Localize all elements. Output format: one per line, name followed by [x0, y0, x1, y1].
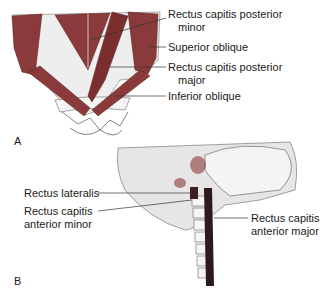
- panel-a-drawing: [12, 12, 166, 135]
- label-rectus-lateralis: Rectus lateralis: [24, 187, 99, 199]
- label-inferior-oblique: Inferior oblique: [168, 90, 241, 102]
- anatomy-illustration: [0, 0, 324, 291]
- label-rcp-minor-cont: minor: [178, 21, 206, 33]
- panel-a-letter: A: [14, 135, 21, 147]
- label-rca-major-cont: anterior major: [251, 225, 319, 237]
- label-superior-oblique: Superior oblique: [168, 41, 248, 53]
- panel-b-letter: B: [14, 275, 21, 287]
- label-rcp-major: Rectus capitis posterior: [168, 61, 282, 73]
- label-rcp-major-cont: major: [178, 74, 206, 86]
- label-rca-minor-cont: anterior minor: [24, 218, 92, 230]
- label-rca-minor: Rectus capitis: [24, 205, 92, 217]
- label-rcp-minor: Rectus capitis posterior: [168, 8, 282, 20]
- label-rca-major: Rectus capitis: [251, 212, 319, 224]
